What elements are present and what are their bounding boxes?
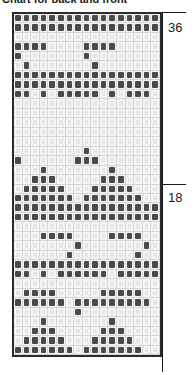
- chart-cell: [14, 336, 23, 345]
- chart-cell: [23, 336, 32, 345]
- chart-cell: [143, 308, 152, 317]
- chart-cell: [126, 137, 135, 146]
- chart-cell: [57, 147, 66, 156]
- chart-cell: [66, 279, 75, 288]
- chart-cell: [100, 90, 109, 99]
- chart-cell: [74, 241, 83, 250]
- chart-cell: [48, 317, 57, 326]
- chart-cell: [91, 232, 100, 241]
- chart-cell: [143, 128, 152, 137]
- chart-cell: [143, 194, 152, 203]
- chart-cell: [23, 118, 32, 127]
- chart-cell: [48, 156, 57, 165]
- chart-cell: [48, 80, 57, 89]
- chart-cell: [40, 308, 49, 317]
- chart-cell: [91, 109, 100, 118]
- chart-cell: [108, 194, 117, 203]
- chart-cell: [57, 42, 66, 51]
- chart-cell: [143, 14, 152, 23]
- chart-cell: [66, 166, 75, 175]
- chart-cell: [66, 203, 75, 212]
- chart-cell: [117, 23, 126, 32]
- chart-cell: [57, 270, 66, 279]
- chart-cell: [100, 222, 109, 231]
- chart-cell: [91, 346, 100, 355]
- chart-cell: [23, 298, 32, 307]
- chart-cell: [126, 185, 135, 194]
- chart-cell: [83, 52, 92, 61]
- chart-cell: [151, 241, 160, 250]
- chart-cell: [117, 90, 126, 99]
- chart-cell: [31, 80, 40, 89]
- chart-cell: [40, 71, 49, 80]
- chart-cell: [40, 336, 49, 345]
- chart-cell: [126, 147, 135, 156]
- chart-cell: [117, 308, 126, 317]
- chart-cell: [83, 251, 92, 260]
- chart-cell: [126, 346, 135, 355]
- chart-cell: [40, 61, 49, 70]
- chart-cell: [14, 23, 23, 32]
- chart-cell: [66, 270, 75, 279]
- chart-cell: [57, 90, 66, 99]
- chart-cell: [108, 232, 117, 241]
- row-36-tick: [162, 12, 186, 13]
- chart-cell: [143, 90, 152, 99]
- chart-cell: [57, 308, 66, 317]
- chart-cell: [14, 203, 23, 212]
- chart-cell: [31, 52, 40, 61]
- chart-cell: [23, 185, 32, 194]
- chart-cell: [57, 317, 66, 326]
- chart-cell: [83, 23, 92, 32]
- chart-cell: [14, 109, 23, 118]
- chart-cell: [31, 251, 40, 260]
- chart-cell: [74, 213, 83, 222]
- chart-cell: [48, 61, 57, 70]
- chart-cell: [57, 175, 66, 184]
- chart-cell: [143, 52, 152, 61]
- chart-cell: [117, 194, 126, 203]
- chart-cell: [117, 279, 126, 288]
- chart-cell: [134, 52, 143, 61]
- chart-cell: [108, 137, 117, 146]
- chart-cell: [66, 99, 75, 108]
- chart-cell: [126, 166, 135, 175]
- chart-cell: [134, 185, 143, 194]
- chart-cell: [40, 99, 49, 108]
- chart-cell: [57, 33, 66, 42]
- chart-cell: [48, 42, 57, 51]
- chart-cell: [83, 346, 92, 355]
- chart-cell: [134, 14, 143, 23]
- chart-cell: [151, 317, 160, 326]
- chart-cell: [134, 346, 143, 355]
- chart-cell: [57, 166, 66, 175]
- chart-cell: [134, 270, 143, 279]
- chart-cell: [126, 156, 135, 165]
- chart-cell: [117, 213, 126, 222]
- chart-cell: [83, 308, 92, 317]
- chart-cell: [48, 128, 57, 137]
- chart-cell: [91, 251, 100, 260]
- chart-cell: [23, 90, 32, 99]
- chart-cell: [74, 185, 83, 194]
- chart-cell: [83, 128, 92, 137]
- chart-cell: [23, 80, 32, 89]
- chart-cell: [108, 156, 117, 165]
- chart-cell: [66, 90, 75, 99]
- chart-cell: [83, 232, 92, 241]
- chart-cell: [151, 99, 160, 108]
- chart-cell: [66, 298, 75, 307]
- chart-cell: [23, 14, 32, 23]
- chart-cell: [40, 109, 49, 118]
- chart-cell: [40, 23, 49, 32]
- chart-cell: [23, 137, 32, 146]
- chart-cell: [31, 308, 40, 317]
- chart-cell: [23, 71, 32, 80]
- chart-cell: [117, 99, 126, 108]
- chart-cell: [91, 279, 100, 288]
- chart-cell: [23, 327, 32, 336]
- chart-cell: [100, 80, 109, 89]
- chart-cell: [31, 185, 40, 194]
- chart-cell: [117, 298, 126, 307]
- chart-cell: [14, 289, 23, 298]
